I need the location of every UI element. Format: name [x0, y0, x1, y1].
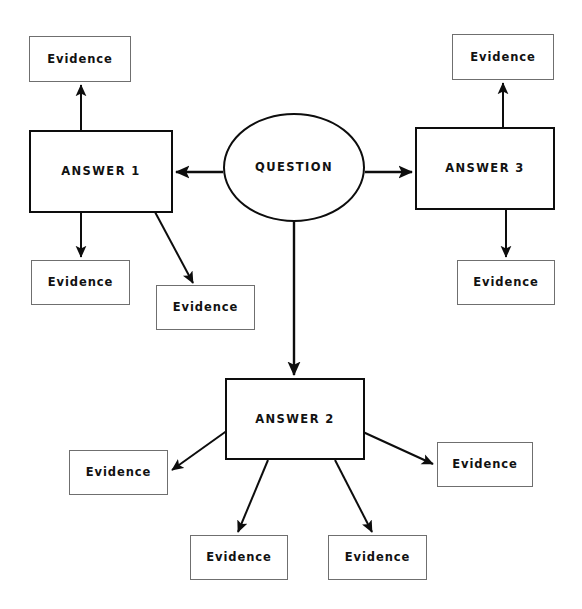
diagram-canvas: QUESTIONANSWER 1ANSWER 2ANSWER 3Evidence…	[0, 0, 582, 609]
node-label-evidence_a2_right: Evidence	[452, 458, 517, 471]
node-label-answer3: ANSWER 3	[445, 162, 524, 175]
node-label-evidence_a2_bottomright: Evidence	[345, 551, 410, 564]
node-evidence_a3_down[interactable]: Evidence	[457, 260, 555, 305]
edge-a2-to-ev-bottomleft	[238, 460, 268, 532]
node-label-evidence_a1_top: Evidence	[47, 53, 112, 66]
edge-a2-to-ev-right	[363, 432, 433, 464]
node-evidence_a1_down[interactable]: Evidence	[31, 260, 130, 305]
node-evidence_a2_bottomleft[interactable]: Evidence	[190, 535, 288, 580]
edge-a1-to-ev-diag	[155, 212, 193, 283]
edge-a2-to-ev-left	[172, 430, 228, 470]
node-evidence_a2_right[interactable]: Evidence	[437, 442, 533, 487]
node-evidence_a3_top[interactable]: Evidence	[452, 34, 554, 80]
node-evidence_a2_left[interactable]: Evidence	[69, 450, 168, 495]
node-answer1[interactable]: ANSWER 1	[29, 130, 173, 213]
node-answer3[interactable]: ANSWER 3	[415, 127, 555, 210]
node-answer2[interactable]: ANSWER 2	[225, 378, 365, 460]
edge-a2-to-ev-bottomright	[335, 460, 372, 532]
node-label-evidence_a2_left: Evidence	[86, 466, 151, 479]
node-label-evidence_a3_top: Evidence	[470, 51, 535, 64]
node-evidence_a1_top[interactable]: Evidence	[29, 36, 131, 82]
node-label-evidence_a2_bottomleft: Evidence	[206, 551, 271, 564]
node-label-answer1: ANSWER 1	[61, 165, 140, 178]
node-label-question: QUESTION	[255, 161, 333, 174]
node-evidence_a1_diag[interactable]: Evidence	[156, 285, 255, 330]
node-label-evidence_a1_diag: Evidence	[173, 301, 238, 314]
node-label-evidence_a3_down: Evidence	[473, 276, 538, 289]
node-evidence_a2_bottomright[interactable]: Evidence	[328, 535, 427, 580]
node-label-answer2: ANSWER 2	[255, 413, 334, 426]
node-question[interactable]: QUESTION	[223, 113, 365, 222]
node-label-evidence_a1_down: Evidence	[48, 276, 113, 289]
